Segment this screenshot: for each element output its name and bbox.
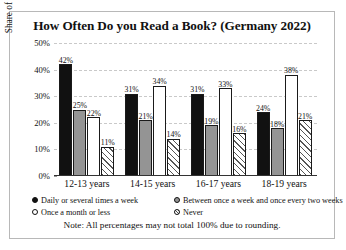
bar-value-label: 42% [59, 56, 73, 65]
bar[interactable]: 21% [299, 120, 312, 176]
bar[interactable]: 42% [59, 64, 72, 176]
x-axis-category-labels: 12-13 years14-15 years16-17 years18-19 y… [54, 178, 317, 189]
bar[interactable]: 31% [125, 94, 138, 176]
bar-slot: 21% [139, 43, 152, 176]
bar[interactable]: 24% [257, 112, 270, 176]
legend-label: Daily or several times a week [41, 196, 138, 205]
bar-group: 42%25%22%11% [59, 43, 114, 176]
bar-value-label: 25% [73, 101, 87, 110]
bar-value-label: 14% [166, 130, 180, 139]
legend-swatch-icon [32, 197, 38, 203]
legend-item[interactable]: Between once a week and once every two w… [174, 196, 322, 205]
bar-slot: 11% [101, 43, 114, 176]
bar-group: 31%21%34%14% [125, 43, 180, 176]
x-axis-category-2: 14-15 years [120, 178, 186, 189]
bar-value-label: 21% [298, 112, 312, 121]
x-axis-category-4: 18-19 years [251, 178, 317, 189]
bar-slot: 42% [59, 43, 72, 176]
legend-swatch-icon [174, 197, 180, 203]
y-axis-tick-label: 10% [10, 144, 50, 154]
y-axis-tick-label: 30% [10, 91, 50, 101]
legend-swatch-icon [174, 209, 180, 215]
y-axis-tick-label: 0% [10, 171, 50, 181]
bar-value-label: 33% [218, 80, 232, 89]
bar[interactable]: 31% [191, 94, 204, 176]
bar-slot: 31% [191, 43, 204, 176]
bar-value-label: 21% [138, 112, 152, 121]
bar-slot: 34% [153, 43, 166, 176]
bar-slot: 18% [271, 43, 284, 176]
bar-value-label: 34% [152, 77, 166, 86]
bar[interactable]: 38% [285, 75, 298, 176]
chart-frame: How Often Do you Read a Book? (Germany 2… [9, 11, 335, 239]
x-axis-line [54, 175, 317, 176]
bar-slot: 25% [73, 43, 86, 176]
bar[interactable]: 33% [219, 88, 232, 176]
bar-slot: 38% [285, 43, 298, 176]
chart-note: Note: All percentages may not total 100%… [10, 220, 334, 230]
bar[interactable]: 14% [167, 139, 180, 176]
plot-area: 42%25%22%11%31%21%34%14%31%19%33%16%24%1… [54, 43, 317, 176]
legend-item[interactable]: Once a month or less [32, 208, 174, 217]
bar[interactable]: 34% [153, 86, 166, 176]
legend-label: Never [183, 208, 203, 217]
bar-group: 31%19%33%16% [191, 43, 246, 176]
bar-value-label: 24% [256, 104, 270, 113]
bar[interactable]: 16% [233, 133, 246, 176]
x-axis-category-3: 16-17 years [186, 178, 252, 189]
legend-item[interactable]: Daily or several times a week [32, 196, 174, 205]
bar-slot: 14% [167, 43, 180, 176]
bar-group: 24%18%38%21% [257, 43, 312, 176]
y-axis-tick-label: 50% [10, 38, 50, 48]
bar-groups: 42%25%22%11%31%21%34%14%31%19%33%16%24%1… [54, 43, 317, 176]
bar-value-label: 11% [101, 138, 115, 147]
bar-value-label: 16% [232, 125, 246, 134]
bar-value-label: 22% [87, 109, 101, 118]
bar-value-label: 19% [204, 117, 218, 126]
bar-value-label: 31% [190, 85, 204, 94]
bar[interactable]: 11% [101, 147, 114, 176]
bar-value-label: 18% [270, 120, 284, 129]
bar[interactable]: 21% [139, 120, 152, 176]
bar[interactable]: 19% [205, 125, 218, 176]
bar-slot: 21% [299, 43, 312, 176]
bar-value-label: 31% [124, 85, 138, 94]
bar-value-label: 38% [284, 66, 298, 75]
bar[interactable]: 22% [87, 117, 100, 176]
bar-slot: 33% [219, 43, 232, 176]
bar-slot: 16% [233, 43, 246, 176]
bar-slot: 24% [257, 43, 270, 176]
bar-slot: 31% [125, 43, 138, 176]
legend-label: Once a month or less [41, 208, 110, 217]
chart-title: How Often Do you Read a Book? (Germany 2… [10, 18, 334, 34]
legend-label: Between once a week and once every two w… [183, 196, 343, 205]
y-axis-tick-label: 20% [10, 118, 50, 128]
legend-swatch-icon [32, 209, 38, 215]
legend-item[interactable]: Never [174, 208, 322, 217]
bar-slot: 22% [87, 43, 100, 176]
chart-legend: Daily or several times a weekBetween onc… [32, 194, 322, 218]
x-axis-category-1: 12-13 years [54, 178, 120, 189]
bar[interactable]: 18% [271, 128, 284, 176]
bar[interactable]: 25% [73, 110, 86, 177]
y-axis-tick-label: 40% [10, 65, 50, 75]
bar-slot: 19% [205, 43, 218, 176]
